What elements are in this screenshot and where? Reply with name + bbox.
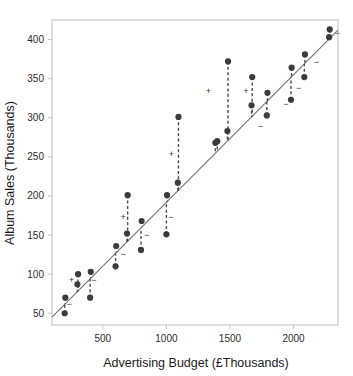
y-tick-label: 150 bbox=[27, 230, 44, 241]
data-point bbox=[139, 218, 145, 224]
residual-negative-sign: − bbox=[296, 83, 301, 93]
data-point bbox=[224, 128, 230, 134]
data-point bbox=[302, 51, 308, 57]
data-point bbox=[112, 263, 118, 269]
data-point bbox=[113, 243, 119, 249]
data-point bbox=[326, 34, 332, 40]
data-point bbox=[87, 295, 93, 301]
data-point bbox=[327, 26, 333, 32]
data-point bbox=[249, 74, 255, 80]
data-point bbox=[62, 310, 68, 316]
data-point bbox=[214, 138, 220, 144]
residual-negative-sign: − bbox=[258, 121, 263, 131]
data-point bbox=[138, 247, 144, 253]
x-tick-label: 1000 bbox=[155, 333, 178, 344]
residual-positive-sign: + bbox=[243, 86, 248, 96]
y-tick-label: 100 bbox=[27, 269, 44, 280]
data-point bbox=[288, 97, 294, 103]
data-point bbox=[264, 90, 270, 96]
x-tick-label: 1500 bbox=[219, 333, 242, 344]
residual-negative-sign: − bbox=[121, 249, 126, 259]
y-axis-label: Album Sales (Thousands) bbox=[3, 101, 17, 245]
y-tick-label: 300 bbox=[27, 112, 44, 123]
scatter-plot: +−−−+−−+++−−−−− 500100015002000501001502… bbox=[0, 0, 353, 376]
data-point bbox=[163, 231, 169, 237]
x-tick-label: 2000 bbox=[282, 333, 305, 344]
data-point bbox=[289, 65, 295, 71]
data-point bbox=[124, 230, 130, 236]
residual-negative-sign: − bbox=[67, 299, 72, 309]
data-point bbox=[175, 114, 181, 120]
y-tick-label: 250 bbox=[27, 151, 44, 162]
residual-positive-sign: + bbox=[121, 212, 126, 222]
y-tick-label: 400 bbox=[27, 34, 44, 45]
plot-background bbox=[0, 0, 353, 376]
data-point bbox=[225, 58, 231, 64]
residual-negative-sign: − bbox=[283, 99, 288, 109]
residual-negative-sign: − bbox=[335, 28, 340, 38]
y-tick-label: 350 bbox=[27, 73, 44, 84]
residual-negative-sign: − bbox=[168, 212, 173, 222]
data-point bbox=[264, 112, 270, 118]
data-point bbox=[164, 192, 170, 198]
x-axis-label: Advertising Budget (£Thousands) bbox=[103, 356, 289, 370]
residual-positive-sign: + bbox=[69, 275, 74, 285]
data-point bbox=[301, 74, 307, 80]
data-point bbox=[75, 271, 81, 277]
y-tick-label: 50 bbox=[33, 308, 45, 319]
x-tick-label: 500 bbox=[95, 333, 112, 344]
residual-positive-sign: + bbox=[169, 149, 174, 159]
data-point bbox=[248, 102, 254, 108]
residual-positive-sign: + bbox=[206, 86, 211, 96]
data-point bbox=[125, 192, 131, 198]
data-point bbox=[74, 281, 80, 287]
chart-container: +−−−+−−+++−−−−− 500100015002000501001502… bbox=[0, 0, 353, 376]
residual-negative-sign: − bbox=[91, 275, 96, 285]
y-tick-label: 200 bbox=[27, 190, 44, 201]
residual-negative-sign: − bbox=[144, 230, 149, 240]
data-point bbox=[175, 180, 181, 186]
residual-negative-sign: − bbox=[314, 57, 319, 67]
